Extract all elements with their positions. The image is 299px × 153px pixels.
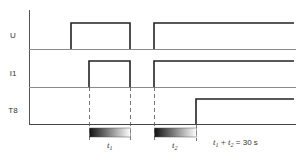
signal-u-pulse1 — [71, 23, 130, 49]
signal-i1-pulse1 — [89, 61, 130, 87]
label-u: U — [10, 31, 16, 40]
interval-bar-t2 — [155, 128, 197, 137]
signal-t8 — [196, 99, 294, 124]
timing-diagram: U I1 T8 t1 t2 t1 + t2 = 30 s — [0, 0, 299, 153]
interval-bar-t1 — [90, 128, 131, 137]
label-t2: t2 — [172, 140, 178, 151]
label-t1: t1 — [107, 140, 113, 151]
label-i1: I1 — [10, 69, 17, 78]
signal-u-pulse2 — [154, 23, 294, 49]
label-t8: T8 — [8, 106, 18, 115]
equation-label: t1 + t2 = 30 s — [213, 137, 258, 148]
signal-i1-pulse2 — [154, 61, 294, 87]
